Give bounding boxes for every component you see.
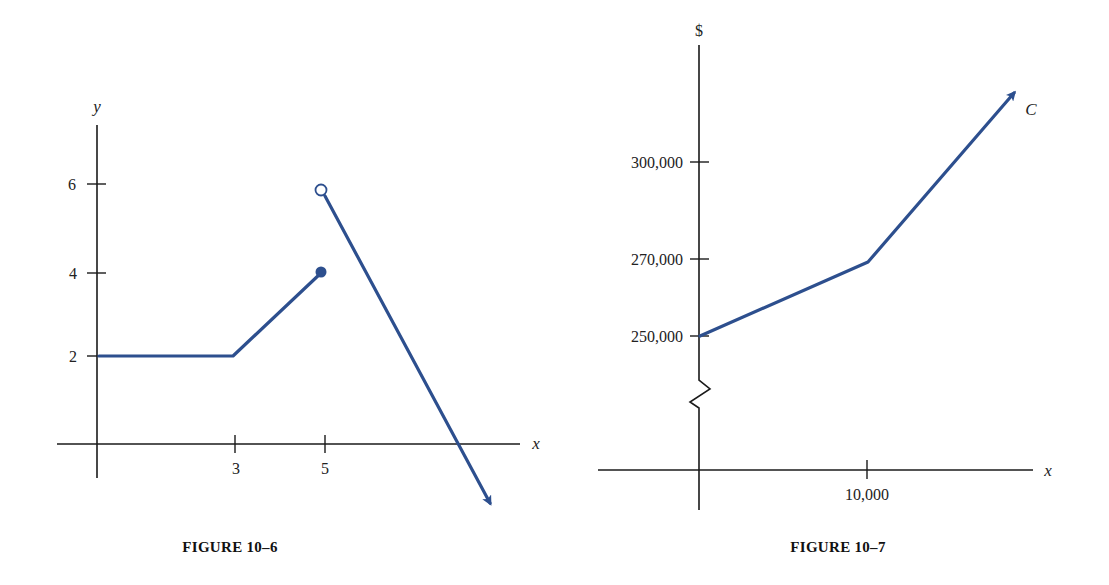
y-tick-label: 4 <box>69 265 77 282</box>
figure-10-7: 300,000 270,000 250,000 10,000 $ x C FIG… <box>598 22 1052 555</box>
y-axis-with-break <box>690 45 710 510</box>
y-tick-label: 250,000 <box>631 328 683 345</box>
figure-caption: FIGURE 10–6 <box>182 539 278 555</box>
cost-curve-c <box>700 93 1014 336</box>
y-tick-label: 6 <box>68 176 76 193</box>
filled-endpoint-dot <box>316 267 327 278</box>
y-axis-label: y <box>91 97 101 116</box>
curve-label: C <box>1025 100 1037 119</box>
y-tick-label: 300,000 <box>631 154 683 171</box>
piecewise-segment-1-2 <box>99 273 321 356</box>
figures-canvas: 6 4 2 3 5 y x FIGURE 10–6 300,000 270,00… <box>0 0 1109 585</box>
open-endpoint-dot <box>316 185 327 196</box>
y-tick-label: 270,000 <box>631 251 683 268</box>
x-tick-label: 3 <box>232 460 240 477</box>
figure-caption: FIGURE 10–7 <box>790 539 886 555</box>
x-tick-label: 5 <box>321 460 329 477</box>
y-tick-label: 2 <box>69 348 77 365</box>
figure-10-6: 6 4 2 3 5 y x FIGURE 10–6 <box>57 97 540 555</box>
x-axis-label: x <box>1043 461 1052 480</box>
y-axis-label: $ <box>695 22 703 39</box>
decreasing-ray <box>325 196 490 503</box>
x-axis-label: x <box>531 434 540 453</box>
x-tick-label: 10,000 <box>845 486 889 503</box>
